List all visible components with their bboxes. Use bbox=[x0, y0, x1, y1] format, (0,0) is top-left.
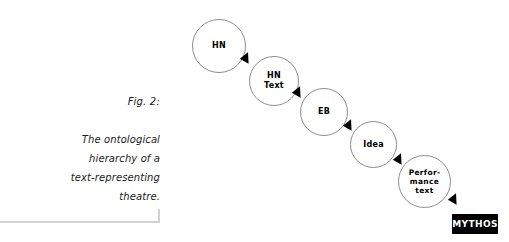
arrow-performance-to-mythos bbox=[448, 192, 462, 206]
ontology-diagram: HN HN Text EB Idea Perfor- mance text bbox=[0, 0, 509, 242]
mythos-label: MYTHOS bbox=[452, 219, 498, 229]
mythos-badge: MYTHOS bbox=[452, 214, 498, 234]
figure-container: Fig. 2: The ontological hierarchy of a t… bbox=[0, 0, 509, 242]
arrow-layer bbox=[0, 0, 509, 242]
arrow-hn-text-to-eb bbox=[292, 85, 306, 99]
arrow-hn-to-hn-text bbox=[240, 51, 254, 65]
arrow-idea-to-performance bbox=[393, 152, 407, 166]
arrow-eb-to-idea bbox=[343, 118, 357, 132]
